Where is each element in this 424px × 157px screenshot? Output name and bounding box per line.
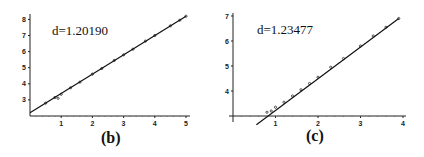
data-point [308,82,310,84]
axis-ticks: 12344567 [225,13,405,128]
data-point [57,97,59,99]
data-point [359,45,361,47]
y-tick-label: 5 [22,64,26,71]
dimension-annotation: d=1.20190 [52,23,108,38]
y-tick-label: 4 [22,80,26,87]
x-tick-label: 3 [359,120,363,127]
y-tick-label: 7 [22,32,26,39]
data-point [270,110,272,112]
data-point [300,89,302,91]
chart-c: 12344567 d=1.23477 (c) [225,13,406,146]
data-point [274,106,276,108]
x-tick-label: 2 [316,120,320,127]
figure-canvas: 12345345678 d=1.20190 (b) 12344567 d=1.2… [0,0,424,157]
x-tick-label: 4 [401,120,405,127]
y-tick-label: 4 [225,88,229,95]
x-tick-label: 1 [274,120,278,127]
y-tick-label: 7 [225,13,229,20]
y-tick-label: 3 [22,96,26,103]
x-tick-label: 5 [184,120,188,127]
data-point [60,93,62,95]
dimension-annotation: d=1.23477 [257,22,314,37]
data-point [317,76,319,78]
x-tick-label: 2 [90,120,94,127]
x-tick-label: 3 [122,120,126,127]
y-tick-label: 5 [225,63,229,70]
data-point [291,95,293,97]
chart-b: 12345345678 d=1.20190 (b) [22,14,190,147]
panel-label: (b) [101,129,121,147]
data-point [372,35,374,37]
x-tick-label: 4 [153,120,157,127]
y-tick-label: 6 [22,48,26,55]
x-tick-label: 1 [59,120,63,127]
data-point [385,26,387,28]
panel-label: (c) [306,127,324,145]
data-point [266,111,268,113]
y-tick-label: 8 [22,16,26,23]
data-point [283,101,285,103]
data-point [330,66,332,68]
y-tick-label: 6 [225,38,229,45]
data-point [342,57,344,59]
